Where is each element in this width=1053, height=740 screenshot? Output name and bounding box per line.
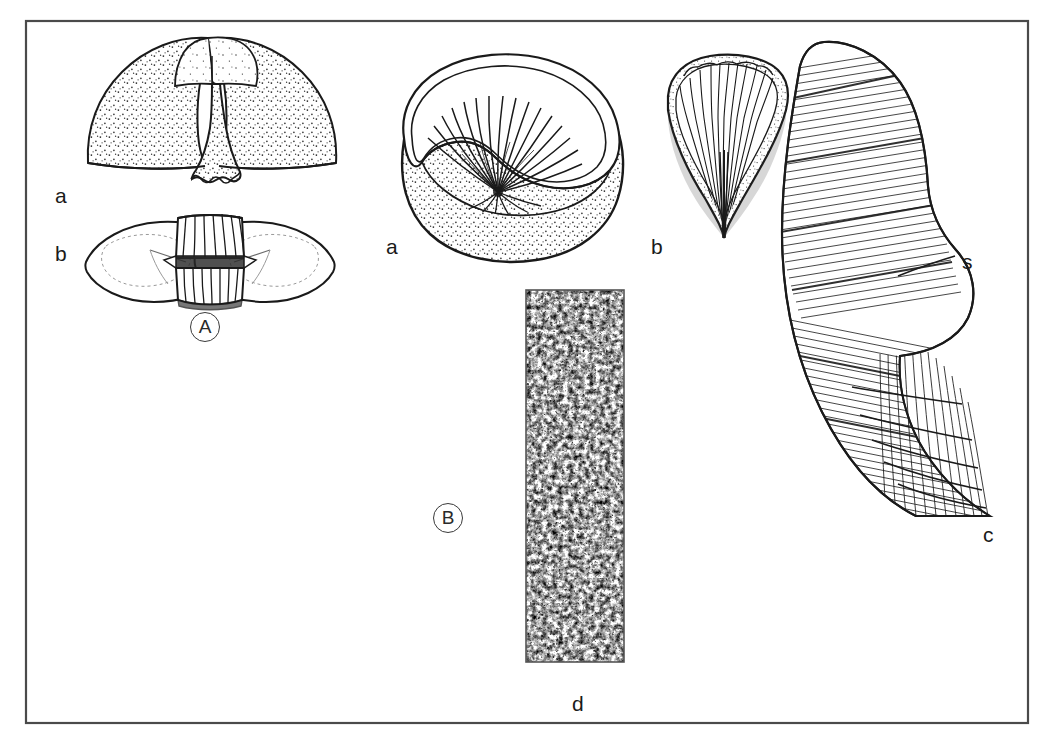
plate-artwork [0, 0, 1053, 740]
specimen-b-lateral-view [668, 55, 788, 238]
label-septum: s [962, 251, 973, 272]
label-specimen-b-section: d [572, 693, 584, 714]
group-label-a-text: A [199, 316, 212, 338]
specimen-b-apertural-view [402, 54, 623, 262]
specimen-b-thin-section [520, 284, 632, 670]
label-specimen-a-dorsal: a [55, 185, 67, 206]
figure-plate: a b a b c d s A B [0, 0, 1053, 740]
label-specimen-a-ventral: b [55, 243, 67, 264]
label-specimen-b-lateral: b [651, 236, 663, 257]
label-specimen-b-detail: c [983, 524, 994, 545]
label-specimen-b-apertural: a [386, 236, 398, 257]
specimen-a-dorsal-view [88, 37, 336, 183]
group-label-b: B [433, 503, 463, 533]
group-label-b-text: B [442, 507, 455, 529]
specimen-b-shell-structure [775, 42, 1041, 536]
group-label-a: A [190, 312, 220, 342]
specimen-a-ventral-view [85, 214, 334, 310]
